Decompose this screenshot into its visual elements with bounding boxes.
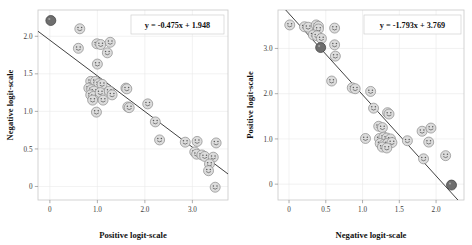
scatter-panel-right: 00.51.01.52.001.02.03.0 y = -1.793x + 3.…	[236, 0, 472, 245]
data-point-marker	[350, 84, 360, 94]
x-tick-label: 1.0	[93, 206, 102, 214]
left-equation-label: y = -0.475x + 1.948	[145, 21, 210, 30]
data-point-marker	[155, 135, 165, 145]
y-tick-label: 3.0	[264, 45, 273, 53]
y-tick-label: 1.0	[24, 108, 33, 116]
y-tick-label: 0.5	[24, 146, 33, 154]
y-tick-label: 1.5	[24, 70, 33, 78]
y-tick-label: 0	[269, 181, 273, 189]
data-point-marker	[330, 51, 340, 61]
x-tick-label: 1.0	[358, 206, 367, 214]
data-point-marker	[441, 151, 451, 161]
x-tick-label: 1.5	[395, 206, 404, 214]
data-point-marker	[366, 86, 376, 96]
right-xaxis-title: Negative logit-scale	[336, 230, 407, 240]
x-tick-label: 3.0	[188, 206, 197, 214]
x-tick-label: 0	[48, 206, 52, 214]
x-tick-label: 0.5	[321, 206, 330, 214]
data-point-marker	[124, 103, 134, 113]
y-tick-label: 0	[29, 183, 33, 191]
left-equation-box: y = -0.475x + 1.948	[131, 15, 224, 34]
data-point-marker	[211, 138, 221, 148]
data-point-marker	[96, 40, 106, 50]
right-equation-box: y = -1.793x + 3.769	[364, 15, 461, 34]
data-point-marker	[285, 20, 295, 30]
data-point-marker	[75, 24, 85, 34]
data-point-marker	[122, 84, 132, 94]
left-yaxis-title: Negative logit-scale	[5, 69, 15, 140]
data-point-marker	[180, 137, 190, 147]
left-panel-background	[0, 0, 236, 245]
data-point-marker	[384, 109, 394, 119]
data-point-marker	[92, 59, 102, 69]
right-yaxis-title: Positive logit-scale	[245, 71, 255, 139]
x-tick-label: 2.0	[432, 206, 441, 214]
data-point-marker	[424, 137, 434, 147]
data-point-marker	[360, 133, 370, 143]
data-point-marker	[150, 117, 160, 127]
data-point-marker	[382, 143, 392, 153]
y-tick-label: 2.0	[264, 90, 273, 98]
left-plot-svg: 01.02.03.000.51.01.52.0 y = -0.475x + 1.…	[0, 0, 236, 245]
data-point-marker	[73, 43, 83, 53]
left-xaxis-title: Positive logit-scale	[99, 230, 167, 240]
right-plot-svg: 00.51.01.52.001.02.03.0 y = -1.793x + 3.…	[236, 0, 472, 245]
data-point-marker	[377, 123, 387, 133]
data-point-marker	[91, 107, 101, 117]
data-point-marker	[316, 43, 326, 53]
y-tick-label: 1.0	[264, 136, 273, 144]
data-point-marker	[192, 136, 202, 146]
data-point-marker	[369, 103, 379, 113]
y-tick-label: 2.0	[24, 33, 33, 41]
scatter-panel-left: 01.02.03.000.51.01.52.0 y = -0.475x + 1.…	[0, 0, 236, 245]
data-point-marker	[447, 180, 457, 190]
data-point-marker	[107, 90, 117, 100]
data-point-marker	[143, 99, 153, 109]
data-point-marker	[210, 182, 220, 192]
right-equation-label: y = -1.793x + 3.769	[380, 21, 445, 30]
x-tick-label: 0	[287, 206, 291, 214]
data-point-marker	[105, 37, 115, 47]
data-point-marker	[330, 23, 340, 33]
data-point-marker	[98, 95, 108, 105]
data-point-marker	[327, 76, 337, 86]
data-point-marker	[426, 123, 436, 133]
x-tick-label: 2.0	[140, 206, 149, 214]
data-point-marker	[102, 48, 112, 58]
data-point-marker	[316, 34, 326, 44]
data-point-marker	[46, 16, 56, 26]
figure-container: 01.02.03.000.51.01.52.0 y = -0.475x + 1.…	[0, 0, 472, 245]
data-point-marker	[419, 154, 429, 164]
data-point-marker	[204, 166, 214, 176]
data-point-marker	[88, 95, 98, 105]
data-point-marker	[330, 40, 340, 50]
data-point-marker	[402, 136, 412, 146]
